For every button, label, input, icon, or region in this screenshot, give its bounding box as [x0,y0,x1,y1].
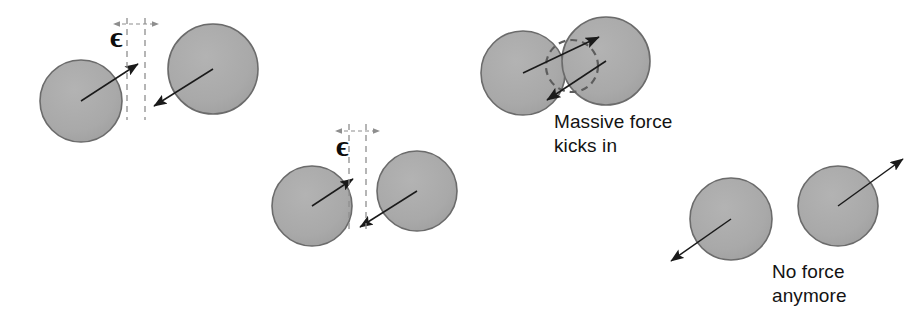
physics-diagram: ϵ ϵ Massive force kicks in No force anym… [0,0,920,326]
epsilon-label-2: ϵ [336,131,349,161]
panel-overlap [481,17,650,115]
gap-tick-head-right [373,128,380,133]
panel-approaching [40,18,258,142]
panel-contact [272,124,457,246]
panel-separating [671,159,903,261]
gap-tick-head-right [152,21,159,26]
massive-force-caption: Massive force kicks in [554,110,673,159]
epsilon-label-1: ϵ [110,22,123,52]
no-force-caption: No force anymore [772,260,847,309]
